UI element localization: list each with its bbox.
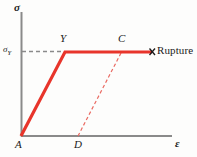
x-axis-title: ε — [175, 138, 180, 149]
sigma-subscript-y: Y — [7, 49, 11, 56]
point-label-y: Y — [60, 33, 66, 44]
point-label-a: A — [15, 139, 22, 150]
stress-strain-curve — [21, 52, 152, 136]
point-label-c: C — [118, 33, 125, 44]
stress-strain-diagram: σ ε σY A Y C D Rupture — [0, 0, 197, 157]
y-axis-title: σ — [14, 2, 20, 13]
chart-canvas — [0, 0, 197, 157]
yield-stress-tick-label: σY — [3, 45, 11, 56]
rupture-annotation-label: Rupture — [157, 45, 193, 56]
point-label-d: D — [74, 139, 82, 150]
unloading-path-line — [78, 53, 121, 136]
